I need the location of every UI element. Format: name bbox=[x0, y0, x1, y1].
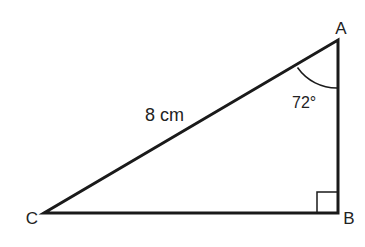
right-angle-marker bbox=[317, 192, 338, 213]
angle-a-label: 72° bbox=[292, 94, 316, 111]
triangle-diagram: A B C 8 cm 72° bbox=[0, 0, 365, 247]
hypotenuse-length-label: 8 cm bbox=[145, 105, 184, 125]
vertex-label-c: C bbox=[26, 209, 38, 228]
vertex-label-a: A bbox=[335, 19, 347, 38]
vertex-label-b: B bbox=[343, 209, 354, 228]
triangle-abc bbox=[44, 40, 338, 213]
angle-arc-a bbox=[298, 68, 339, 89]
